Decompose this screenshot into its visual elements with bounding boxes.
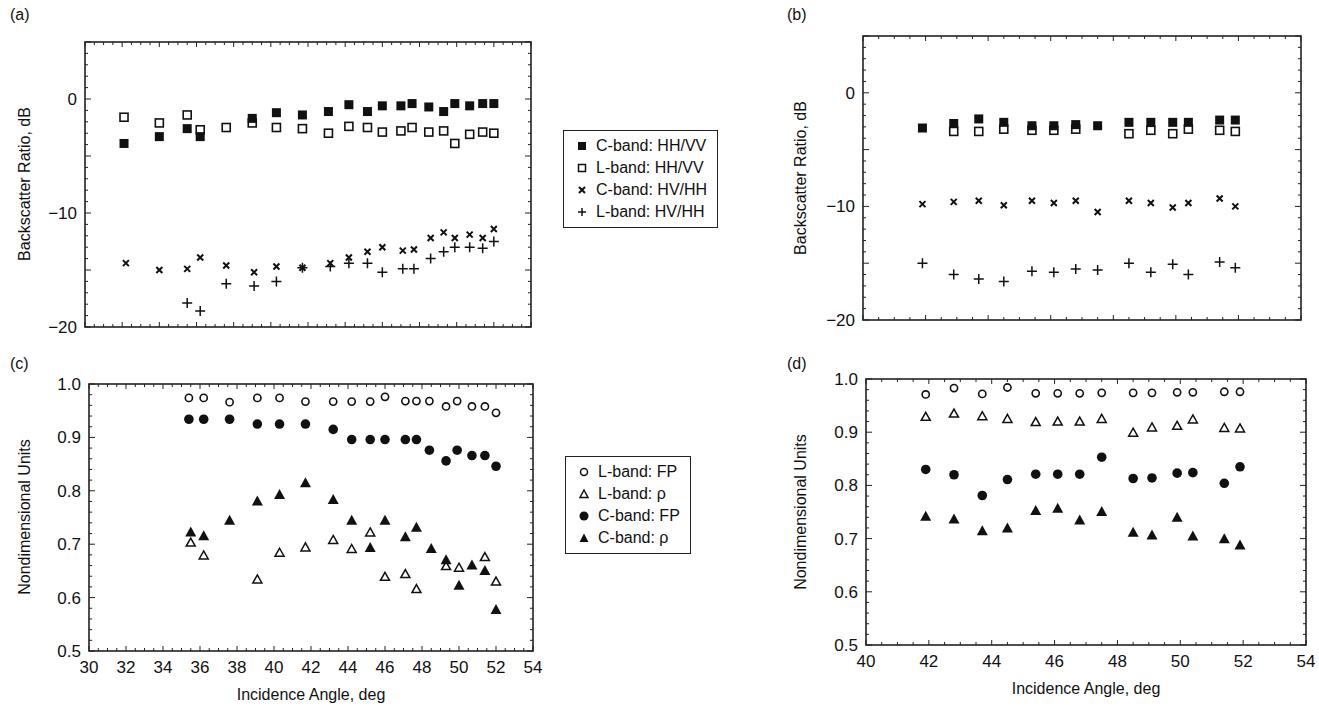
filled-triangle-icon <box>576 531 592 545</box>
legend-item: L-band: HV/HH <box>574 201 707 223</box>
x-cross-icon <box>574 183 590 197</box>
legend-nondimensional: L-band: FP L-band: ρ C-band: FP C-band: … <box>565 456 691 554</box>
open-circle-icon <box>576 465 592 479</box>
legend-label: C-band: HV/HH <box>596 179 707 201</box>
y-axis-title: Nondimensional Units <box>16 439 33 595</box>
x-tick-label: 50 <box>1171 652 1190 671</box>
legend-item: L-band: ρ <box>576 483 680 505</box>
plot-frame <box>85 42 531 327</box>
legend-item: L-band: FP <box>576 461 680 483</box>
x-tick-label: 54 <box>524 658 543 677</box>
series-filled-circle <box>184 414 501 471</box>
x-tick-label: 36 <box>191 658 210 677</box>
legend-label: L-band: ρ <box>598 483 666 505</box>
plus-icon <box>574 205 590 219</box>
y-tick-label: −20 <box>48 318 77 337</box>
plot-a: 0−10−20Backscatter Ratio, dB <box>16 42 531 337</box>
y-tick-label: 0.6 <box>57 589 81 608</box>
y-tick-label: 0.6 <box>834 583 858 602</box>
x-tick-label: 38 <box>228 658 247 677</box>
x-tick-label: 54 <box>1297 652 1316 671</box>
y-tick-label: −20 <box>826 311 855 330</box>
plot-frame <box>866 379 1306 645</box>
legend-backscatter: C-band: HH/VV L-band: HH/VV C-band: HV/H… <box>563 130 718 228</box>
legend-item: C-band: ρ <box>576 527 680 549</box>
series-x-cross <box>919 195 1238 215</box>
x-tick-label: 42 <box>302 658 321 677</box>
x-tick-label: 48 <box>1108 652 1127 671</box>
y-tick-label: 0.9 <box>57 428 81 447</box>
plot-frame <box>863 36 1301 320</box>
x-tick-label: 52 <box>487 658 506 677</box>
plot-d: 0.50.60.70.80.91.04042444648505254Nondim… <box>792 370 1315 697</box>
series-open-circle <box>185 393 499 416</box>
series-filled-square <box>918 114 1240 132</box>
series-filled-triangle <box>920 503 1245 550</box>
x-tick-label: 46 <box>1045 652 1064 671</box>
open-square-icon <box>574 161 590 175</box>
y-axis-title: Backscatter Ratio, dB <box>792 101 809 255</box>
plot-frame <box>89 384 533 651</box>
x-tick-label: 46 <box>376 658 395 677</box>
y-tick-label: 1.0 <box>57 375 81 394</box>
series-filled-square <box>120 99 499 148</box>
y-tick-label: −10 <box>826 197 855 216</box>
x-tick-label: 44 <box>982 652 1001 671</box>
legend-item: C-band: HH/VV <box>574 135 707 157</box>
x-tick-label: 30 <box>80 658 99 677</box>
x-tick-label: 42 <box>919 652 938 671</box>
x-axis-title: Incidence Angle, deg <box>237 686 386 703</box>
series-filled-circle <box>921 452 1245 500</box>
series-open-circle <box>922 384 1243 398</box>
y-tick-label: 0.8 <box>57 482 81 501</box>
series-filled-triangle <box>185 477 501 614</box>
series-plus <box>182 237 499 317</box>
x-axis-title: Incidence Angle, deg <box>1012 680 1161 697</box>
series-open-triangle <box>921 409 1244 436</box>
y-tick-label: 1.0 <box>834 370 858 389</box>
legend-label: L-band: FP <box>598 461 677 483</box>
plot-c: 0.50.60.70.80.91.03032343638404244464850… <box>16 375 542 703</box>
x-tick-label: 44 <box>339 658 358 677</box>
filled-square-icon <box>574 139 590 153</box>
x-tick-label: 40 <box>265 658 284 677</box>
y-tick-label: 0.9 <box>834 423 858 442</box>
legend-label: L-band: HH/VV <box>596 157 704 179</box>
y-tick-label: −10 <box>48 204 77 223</box>
series-open-square <box>120 111 498 148</box>
y-axis-title: Backscatter Ratio, dB <box>16 107 33 261</box>
x-tick-label: 34 <box>154 658 173 677</box>
y-tick-label: 0 <box>846 84 855 103</box>
y-tick-label: 0.8 <box>834 476 858 495</box>
y-tick-label: 0.7 <box>57 535 81 554</box>
legend-label: C-band: HH/VV <box>596 135 706 157</box>
x-tick-label: 32 <box>117 658 136 677</box>
series-x-cross <box>123 226 497 275</box>
legend-label: C-band: FP <box>598 505 680 527</box>
y-tick-label: 0 <box>68 90 77 109</box>
legend-label: C-band: ρ <box>598 527 668 549</box>
legend-item: L-band: HH/VV <box>574 157 707 179</box>
y-tick-label: 0.5 <box>834 636 858 655</box>
x-tick-label: 52 <box>1234 652 1253 671</box>
open-triangle-icon <box>576 487 592 501</box>
series-open-triangle <box>186 528 500 593</box>
series-plus <box>917 257 1240 286</box>
x-tick-label: 48 <box>413 658 432 677</box>
y-axis-title: Nondimensional Units <box>792 434 809 590</box>
legend-item: C-band: FP <box>576 505 680 527</box>
legend-label: L-band: HV/HH <box>596 201 705 223</box>
plot-b: 0−10−20Backscatter Ratio, dB <box>792 36 1301 330</box>
x-tick-label: 50 <box>450 658 469 677</box>
legend-item: C-band: HV/HH <box>574 179 707 201</box>
y-tick-label: 0.7 <box>834 530 858 549</box>
y-tick-label: 0.5 <box>57 642 81 661</box>
x-tick-label: 40 <box>857 652 876 671</box>
figure-canvas: 0−10−20Backscatter Ratio, dB0−10−20Backs… <box>0 0 1319 713</box>
filled-circle-icon <box>576 509 592 523</box>
